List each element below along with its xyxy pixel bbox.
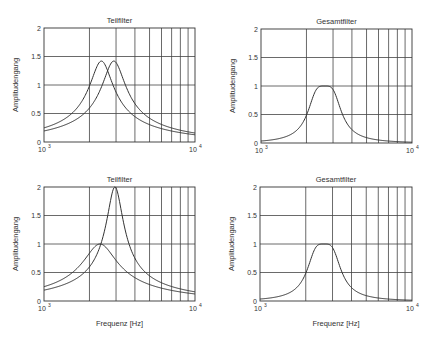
y-tick-label: 0.5 [248, 111, 258, 118]
chart-panel-4: 00.511.52103104GesamtfilterAmplitudengan… [227, 175, 419, 328]
chart-title: Teilfilter [107, 16, 133, 25]
x-tick-label-min: 10 [254, 305, 262, 312]
y-tick-label: 2 [253, 184, 257, 191]
y-tick-label: 1 [37, 241, 41, 248]
x-tick-exp: 4 [199, 143, 202, 149]
y-tick-label: 0.5 [31, 110, 41, 117]
chart-title: Teilfilter [107, 175, 133, 184]
chart-title: Gesamtfilter [316, 17, 357, 26]
x-axis-label: Frequenz [Hz] [312, 319, 359, 328]
y-axis-label: Amplitudengang [11, 217, 20, 271]
y-tick-label: 1 [253, 241, 257, 248]
y-tick-label: 1.5 [31, 212, 41, 219]
x-tick-label-max: 10 [406, 147, 414, 154]
series-line-2 [44, 61, 195, 133]
x-tick-label-max: 10 [406, 305, 414, 312]
chart-panel-3: 00.511.52103104TeilfilterAmplitudengangF… [11, 175, 202, 328]
chart-panel-2: 00.511.52103104GesamtfilterAmplitudengan… [228, 17, 419, 154]
y-tick-label: 0.5 [31, 269, 41, 276]
y-tick-label: 1 [254, 83, 258, 90]
series-line-1 [261, 86, 412, 142]
x-axis-label: Frequenz [Hz] [96, 319, 143, 328]
x-tick-exp: 4 [416, 302, 419, 308]
y-tick-label: 0.5 [247, 269, 257, 276]
y-tick-label: 1.5 [247, 212, 257, 219]
x-tick-exp: 3 [48, 302, 51, 308]
y-tick-label: 0 [37, 298, 41, 305]
y-tick-label: 0 [253, 298, 257, 305]
x-tick-label-max: 10 [189, 146, 197, 153]
y-tick-label: 2 [37, 25, 41, 32]
chart-title: Gesamtfilter [316, 175, 357, 184]
y-tick-label: 1 [37, 82, 41, 89]
figure: 00.511.52103104TeilfilterAmplitudengang0… [0, 0, 437, 341]
y-axis-label: Amplitudengang [11, 58, 20, 112]
x-tick-exp: 3 [264, 302, 267, 308]
y-tick-label: 0 [254, 140, 258, 147]
x-tick-exp: 4 [199, 302, 202, 308]
y-axis-label: Amplitudengang [228, 59, 237, 113]
y-tick-label: 1.5 [248, 54, 258, 61]
x-tick-exp: 3 [265, 144, 268, 150]
x-tick-label-max: 10 [189, 305, 197, 312]
x-tick-label-min: 10 [255, 147, 263, 154]
series-line-1 [260, 244, 412, 300]
y-axis-label: Amplitudengang [227, 217, 236, 271]
x-tick-label-min: 10 [38, 146, 46, 153]
y-tick-label: 0 [37, 139, 41, 146]
y-tick-label: 2 [37, 184, 41, 191]
x-tick-exp: 4 [416, 144, 419, 150]
y-tick-label: 1.5 [31, 53, 41, 60]
y-tick-label: 2 [254, 26, 258, 33]
x-tick-exp: 3 [48, 143, 51, 149]
series-line-2 [44, 187, 195, 292]
chart-panel-1: 00.511.52103104TeilfilterAmplitudengang [11, 16, 202, 153]
x-tick-label-min: 10 [38, 305, 46, 312]
